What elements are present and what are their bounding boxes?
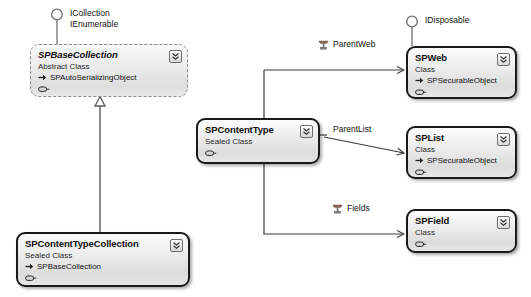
class-name: SPList xyxy=(415,132,508,144)
property-icon xyxy=(415,240,427,248)
class-member-row xyxy=(415,166,508,177)
class-box-spcontenttype[interactable]: SPContentType Sealed Class xyxy=(196,118,320,164)
class-box-spfield[interactable]: SPField Class xyxy=(406,209,517,253)
lollipop-idisposable xyxy=(407,16,418,46)
class-base-row: SPSecurableObject xyxy=(415,155,508,166)
double-chevron-down-icon xyxy=(499,218,508,227)
class-name: SPContentType xyxy=(205,124,311,136)
association-parentlist-line xyxy=(324,137,404,153)
association-icon xyxy=(318,39,329,50)
association-label-text: Fields xyxy=(347,203,370,214)
interface-label-icollection: ICollection IEnumerable xyxy=(70,8,118,30)
double-chevron-down-icon xyxy=(172,241,181,250)
class-base-row: SPSecurableObject xyxy=(415,75,508,86)
double-chevron-down-icon xyxy=(171,52,180,61)
property-icon xyxy=(415,168,427,176)
class-base-name: SPBaseCollection xyxy=(37,261,101,272)
collapse-icon[interactable] xyxy=(170,239,183,252)
double-chevron-down-icon xyxy=(499,135,508,144)
inheritance-arrow-icon xyxy=(415,156,424,165)
association-label-text: ParentList xyxy=(333,124,371,135)
collapse-icon[interactable] xyxy=(497,216,510,229)
collapse-icon[interactable] xyxy=(497,133,510,146)
property-icon xyxy=(38,85,50,93)
association-label-parentlist[interactable]: ParentList xyxy=(331,124,373,135)
inheritance-arrow-icon xyxy=(38,73,47,82)
class-stereotype: Class xyxy=(415,227,508,238)
class-stereotype: Class xyxy=(415,64,508,75)
property-icon xyxy=(25,274,37,282)
class-box-spbasecollection[interactable]: SPBaseCollection Abstract Class SPAutoSe… xyxy=(30,44,188,97)
class-base-row: SPAutoSerializingObject xyxy=(38,72,180,83)
class-member-row xyxy=(205,147,311,158)
class-base-name: SPAutoSerializingObject xyxy=(50,72,137,83)
double-chevron-down-icon xyxy=(499,55,508,64)
class-member-row xyxy=(25,272,181,283)
association-label-fields[interactable]: Fields xyxy=(330,203,372,214)
class-box-splist[interactable]: SPList Class SPSecurableObject xyxy=(406,126,517,179)
property-icon xyxy=(415,88,427,96)
uml-class-diagram-canvas: ICollection IEnumerable IDisposable SPBa… xyxy=(0,0,531,297)
class-name: SPContentTypeCollection xyxy=(25,238,181,250)
class-base-row: SPBaseCollection xyxy=(25,261,181,272)
inheritance-arrow-icon xyxy=(25,262,34,271)
class-box-spcontenttypecollection[interactable]: SPContentTypeCollection Sealed Class SPB… xyxy=(16,232,190,287)
interface-label-line1: IDisposable xyxy=(425,15,469,26)
interface-label-idisposable: IDisposable xyxy=(425,15,469,26)
class-box-spweb[interactable]: SPWeb Class SPSecurableObject xyxy=(406,46,517,99)
association-label-parentweb[interactable]: ParentWeb xyxy=(316,39,377,50)
collapse-icon[interactable] xyxy=(497,53,510,66)
class-name: SPWeb xyxy=(415,52,508,64)
class-member-row xyxy=(415,238,508,249)
lollipop-icollection xyxy=(52,9,63,44)
class-stereotype: Abstract Class xyxy=(38,61,180,72)
class-member-row xyxy=(38,83,180,94)
association-icon xyxy=(332,203,343,214)
interface-label-line1: ICollection xyxy=(70,8,118,19)
double-chevron-down-icon xyxy=(302,127,311,136)
association-label-text: ParentWeb xyxy=(333,39,375,50)
inheritance-arrow-icon xyxy=(415,76,424,85)
class-base-name: SPSecurableObject xyxy=(427,75,497,86)
collapse-icon[interactable] xyxy=(169,50,182,63)
property-icon xyxy=(205,149,217,157)
class-stereotype: Sealed Class xyxy=(25,250,181,261)
class-stereotype: Class xyxy=(415,144,508,155)
class-name: SPBaseCollection xyxy=(38,49,180,61)
interface-label-line2: IEnumerable xyxy=(70,19,118,30)
class-member-row xyxy=(415,86,508,97)
class-base-name: SPSecurableObject xyxy=(427,155,497,166)
collapse-icon[interactable] xyxy=(300,125,313,138)
class-stereotype: Sealed Class xyxy=(205,136,311,147)
inheritance-spcontenttypecollection-spbasecollection xyxy=(95,97,105,233)
class-name: SPField xyxy=(415,215,508,227)
